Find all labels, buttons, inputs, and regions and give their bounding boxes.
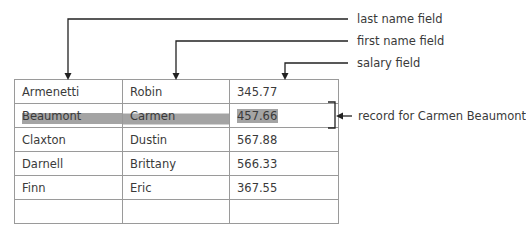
last-name-cell: Finn bbox=[15, 176, 123, 200]
table-row: Darnell Brittany 566.33 bbox=[15, 152, 339, 176]
salary-cell bbox=[230, 200, 339, 224]
table-row: Finn Eric 367.55 bbox=[15, 176, 339, 200]
salary-cell: 367.55 bbox=[230, 176, 339, 200]
table-row: Armenetti Robin 345.77 bbox=[15, 80, 339, 104]
last-name-cell bbox=[15, 200, 123, 224]
salary-cell: 345.77 bbox=[230, 80, 339, 104]
first-name-cell: Eric bbox=[123, 176, 230, 200]
first-name-arrow bbox=[176, 41, 348, 74]
last-name-cell: Claxton bbox=[15, 128, 123, 152]
first-name-cell: Dustin bbox=[123, 128, 230, 152]
table-row: Claxton Dustin 567.88 bbox=[15, 128, 339, 152]
last-name-field-label: last name field bbox=[357, 12, 442, 26]
last-name-cell: Darnell bbox=[15, 152, 123, 176]
salary-arrow bbox=[285, 63, 348, 74]
first-name-field-label: first name field bbox=[357, 34, 444, 48]
table-row-highlighted: Beaumont Carmen 457.66 bbox=[15, 104, 339, 128]
salary-cell: 567.88 bbox=[230, 128, 339, 152]
salary-cell: 566.33 bbox=[230, 152, 339, 176]
first-name-cell bbox=[123, 200, 230, 224]
first-name-cell: Robin bbox=[123, 80, 230, 104]
table-row-empty bbox=[15, 200, 339, 224]
records-table: Armenetti Robin 345.77 Beaumont Carmen 4… bbox=[14, 79, 339, 224]
last-name-arrow bbox=[68, 19, 348, 74]
record-label: record for Carmen Beaumont bbox=[358, 109, 526, 123]
salary-cell: 457.66 bbox=[230, 104, 339, 128]
last-name-cell: Beaumont bbox=[15, 104, 123, 128]
first-name-cell: Carmen bbox=[123, 104, 230, 128]
first-name-cell: Brittany bbox=[123, 152, 230, 176]
salary-field-label: salary field bbox=[357, 56, 420, 70]
last-name-cell: Armenetti bbox=[15, 80, 123, 104]
